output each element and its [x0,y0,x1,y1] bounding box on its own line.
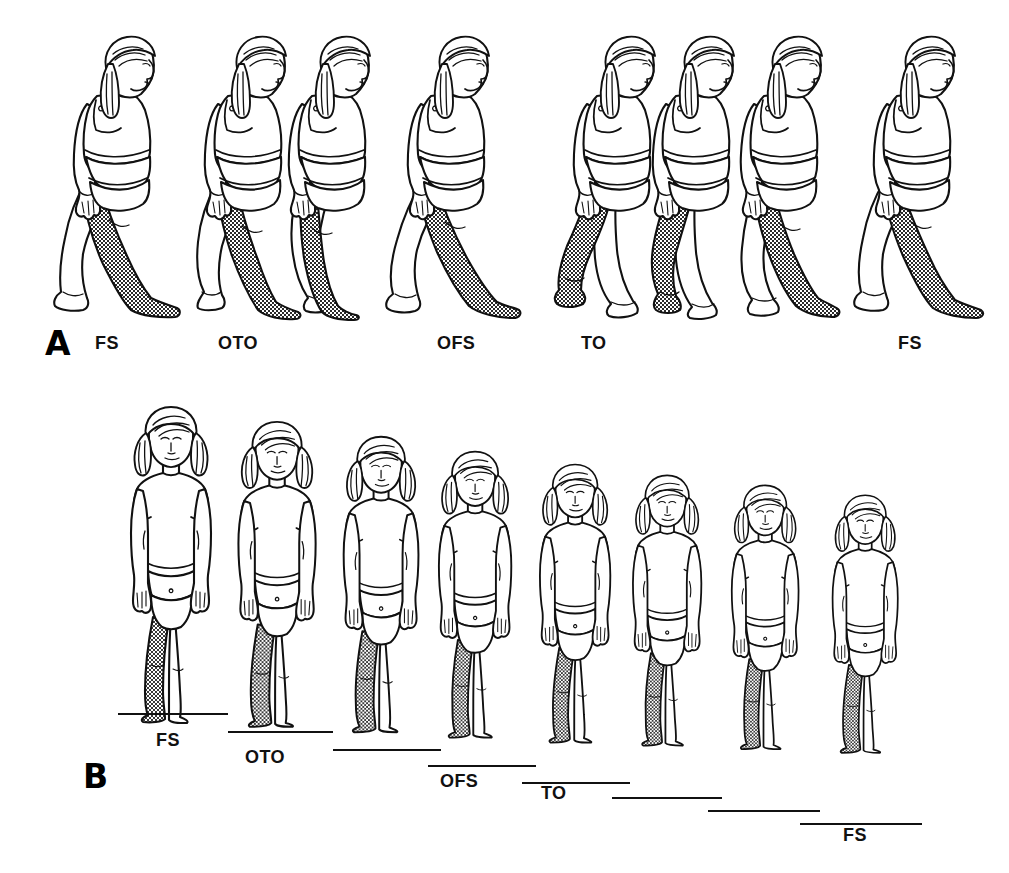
gait-event-label-fs-1: FS [95,334,119,352]
gait-event-label-ofs: OFS [437,334,475,352]
ground-line-3 [333,749,441,751]
gait-figure-b-8 [820,492,913,753]
ground-line-4 [428,765,536,767]
gait-figure-b-6 [619,472,716,746]
ground-line-2 [228,731,333,733]
gait-figure: A [0,0,1009,873]
gait-figure-a-8 [851,30,985,320]
ground-line-5 [522,782,630,784]
panel-a-sagittal-view: A [0,0,1009,380]
gait-figure-a-1 [53,30,183,320]
gait-figure-b-5 [526,461,626,743]
gait-figure-b-2 [223,418,333,727]
gait-figure-a-3 [274,30,392,320]
ground-line-7 [708,810,820,812]
panel-a-letter: A [45,327,71,360]
ground-line-1 [118,713,228,715]
gait-figure-a-4 [383,30,523,320]
gait-figure-b-4 [424,448,527,738]
gait-event-label-to: TO [541,784,566,802]
gait-event-label-oto: OTO [218,334,258,352]
gait-event-label-ofs: OFS [440,772,478,790]
panel-b-letter: B [83,760,108,793]
panel-b-frontal-view: B [0,380,1009,873]
gait-event-label-oto: OTO [245,748,285,766]
gait-event-label-fs-1: FS [156,731,180,749]
gait-event-label-fs-2: FS [898,334,922,352]
gait-figure-b-1 [115,403,229,723]
ground-line-6 [612,797,722,799]
gait-figure-b-3 [329,433,436,732]
gait-figure-b-7 [718,482,813,749]
gait-event-label-to: TO [581,334,606,352]
gait-figure-a-7 [722,30,844,320]
gait-event-label-fs-2: FS [843,826,867,844]
